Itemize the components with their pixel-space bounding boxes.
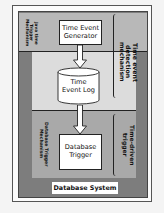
- node-label: Time Event Generator: [62, 25, 99, 41]
- brace-icon: [113, 114, 117, 176]
- time-driven-trigger-label: Time-driven trigger: [122, 112, 135, 178]
- time-event-log-node: Time Event Log: [57, 67, 100, 105]
- database-trigger-mechanism-label: Database Trigger Mechanism: [38, 116, 48, 172]
- database-trigger-node: Database Trigger: [59, 134, 102, 170]
- brace-icon: [113, 14, 117, 98]
- java-time-trigger-label: Java time Trigger Mechanism: [24, 16, 38, 50]
- time-event-detection-label: Time event detection mechanism: [118, 26, 138, 98]
- database-system-label: Database System: [52, 182, 118, 194]
- arrow-down-icon: [72, 105, 88, 135]
- node-label: Database Trigger: [65, 144, 96, 160]
- time-event-generator-node: Time Event Generator: [59, 20, 102, 45]
- node-label: Time Event Log: [57, 79, 100, 95]
- arrow-down-icon: [72, 45, 88, 69]
